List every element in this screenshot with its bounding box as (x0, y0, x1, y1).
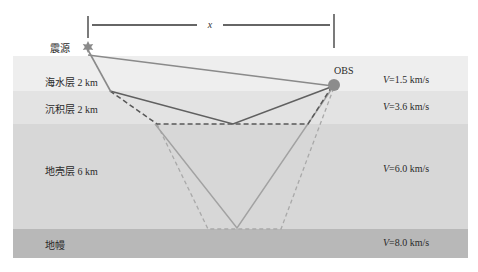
receiver-label: OBS (334, 65, 353, 76)
crust-velocity: V=6.0 km/s (383, 163, 429, 174)
offset-label: x (207, 19, 213, 30)
water-layer-label: 海水层 2 km (45, 74, 98, 89)
source-label: 震源 (50, 40, 70, 55)
obs-receiver-icon (328, 79, 340, 91)
crust-layer-label: 地壳层 6 km (45, 163, 98, 178)
ray-diagram: x (0, 0, 478, 272)
mantle-velocity: V=8.0 km/s (383, 237, 429, 248)
sediment-layer-label: 沉积层 2 km (45, 101, 98, 116)
direct-ray (88, 50, 333, 92)
source-star-icon (83, 41, 93, 53)
sediment-velocity: V=3.6 km/s (383, 101, 429, 112)
sediment-refracted-dashed-ray (110, 88, 331, 124)
mantle-layer-label: 地幔 (45, 237, 65, 252)
sediment-reflected-ray (110, 87, 331, 124)
water-velocity: V=1.5 km/s (383, 74, 429, 85)
